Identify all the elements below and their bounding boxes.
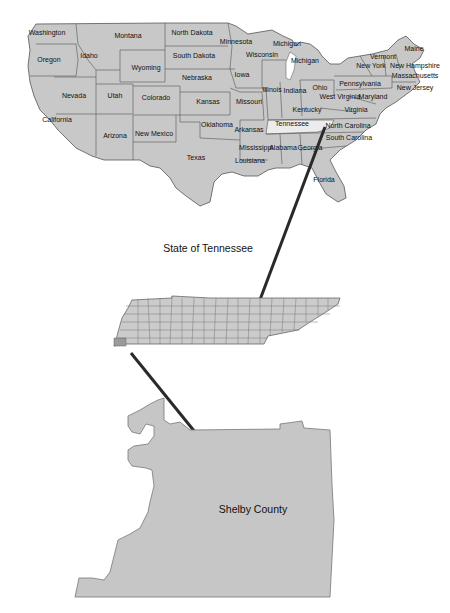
state-label: Alabama — [269, 144, 297, 151]
us-map: WashingtonMontanaNorth DakotaMinnesotaMi… — [28, 23, 440, 206]
state-label: Texas — [187, 154, 206, 161]
state-label: Illinois — [262, 86, 282, 93]
state-label: Louisiana — [235, 157, 265, 164]
state-label: Wisconsin — [246, 51, 278, 58]
state-label: Virginia — [344, 106, 367, 114]
state-label: California — [42, 116, 72, 123]
state-label: Vermont — [370, 53, 396, 60]
state-label: Massachusetts — [392, 72, 439, 79]
state-label: North Dakota — [171, 29, 212, 36]
state-label: Maine — [404, 45, 423, 52]
state-label: South Carolina — [326, 134, 372, 141]
state-label: Utah — [108, 92, 123, 99]
state-label: Iowa — [235, 71, 250, 78]
state-label: Montana — [114, 32, 141, 39]
state-label: Pennsylvania — [339, 80, 381, 88]
state-label: Kansas — [196, 98, 220, 105]
state-label: Kentucky — [293, 106, 322, 114]
state-label: Michigan — [291, 57, 319, 65]
state-label: Oregon — [37, 56, 60, 64]
state-label: Michigan — [273, 40, 301, 48]
state-label: North Carolina — [325, 122, 370, 129]
state-label: Maryland — [359, 93, 388, 101]
state-label: Indiana — [284, 87, 307, 94]
state-label: Missouri — [236, 98, 263, 105]
tennessee-map — [114, 296, 340, 346]
shelby-county-outline — [75, 398, 334, 597]
state-label: Florida — [313, 176, 335, 183]
state-label: Washington — [29, 29, 66, 37]
state-label: Arizona — [103, 132, 127, 139]
state-label: Arkansas — [234, 126, 264, 133]
state-label: New Hampshire — [390, 62, 440, 70]
shelby-county-label: Shelby County — [219, 503, 288, 515]
state-label: Nevada — [62, 92, 86, 99]
state-label: Idaho — [80, 52, 98, 59]
shelby-county-map — [75, 398, 334, 597]
state-label: New Mexico — [135, 130, 173, 137]
state-label: Nebraska — [182, 74, 212, 81]
state-label: New Jersey — [397, 84, 434, 92]
state-label: Oklahoma — [201, 121, 233, 128]
state-label: West Virginia — [320, 93, 361, 101]
state-label: Colorado — [142, 94, 171, 101]
us-outline — [28, 23, 424, 206]
state-label: New York — [356, 62, 386, 69]
state-label: Minnesota — [220, 38, 252, 45]
shelby-county-highlight — [114, 338, 126, 346]
state-label: Ohio — [313, 84, 328, 91]
state-label: South Dakota — [173, 52, 216, 59]
state-label: Wyoming — [131, 64, 160, 72]
map-canvas: WashingtonMontanaNorth DakotaMinnesotaMi… — [0, 0, 450, 613]
state-label: Tennessee — [275, 120, 309, 127]
tennessee-title: State of Tennessee — [163, 242, 253, 254]
